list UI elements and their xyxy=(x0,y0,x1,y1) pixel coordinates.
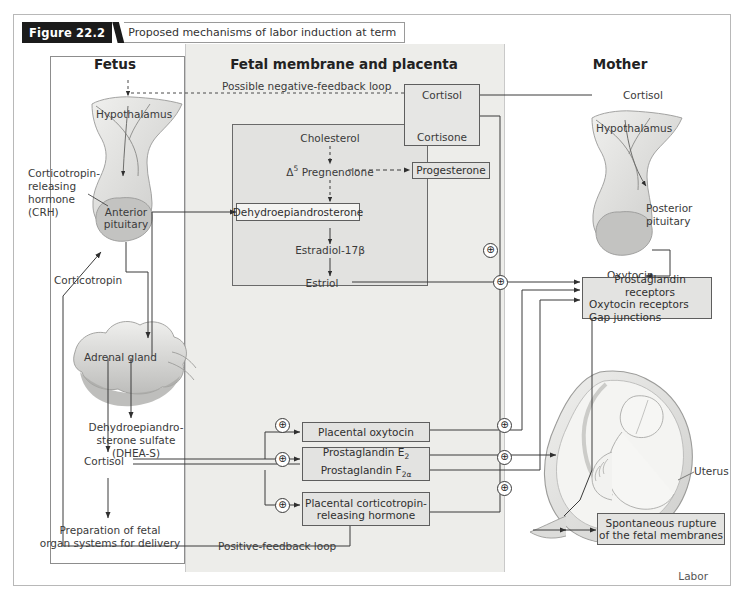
label-oxytocin-receptors: Oxytocin receptors xyxy=(589,298,689,311)
dehydroepiandrosterone-box: Dehydroepiandrosterone xyxy=(236,203,360,221)
label-preparation-line2: organ systems for delivery xyxy=(18,537,202,550)
label-prostaglandin-e2: Prostaglandin E2 xyxy=(323,446,409,464)
plus-symbol-prostaglandin-in: ⊕ xyxy=(275,452,290,467)
label-cortisone: Cortisone xyxy=(404,131,480,144)
label-crh-line1: Corticotropin- xyxy=(28,167,100,180)
figure-title-bar: Figure 22.2 Proposed mechanisms of labor… xyxy=(22,22,405,43)
label-preparation-line1: Preparation of fetal xyxy=(30,524,190,537)
rupture-box: Spontaneous rupture of the fetal membran… xyxy=(597,513,725,545)
progesterone-box: Progesterone xyxy=(412,162,490,179)
label-corticotropin: Corticotropin xyxy=(54,274,122,287)
label-adrenal-gland: Adrenal gland xyxy=(84,351,157,364)
receptors-box: Prostaglandin receptors Oxytocin recepto… xyxy=(582,277,712,319)
label-pregnenolone: Δ5 Pregnenolone xyxy=(272,163,388,178)
label-uterus: Uterus xyxy=(694,465,729,478)
placental-oxytocin-box: Placental oxytocin xyxy=(302,422,430,442)
label-placental-crh-line2: releasing hormone xyxy=(317,509,415,522)
label-dheas-line2: sterone sulfate xyxy=(76,434,196,447)
plus-symbol-estriol: ⊕ xyxy=(493,275,508,290)
label-dheas-line1: Dehydroepiandro- xyxy=(76,421,196,434)
label-crh-line4: (CRH) xyxy=(28,206,59,219)
label-fetal-hypothalamus: Hypothalamus xyxy=(96,108,172,121)
plus-symbol-pge2-out: ⊕ xyxy=(497,450,512,465)
label-maternal-hypothalamus: Hypothalamus xyxy=(596,122,672,135)
plus-symbol-pgf2a-out: ⊕ xyxy=(497,481,512,496)
plus-symbol-oxytocin-in: ⊕ xyxy=(275,418,290,433)
pregnenolone-name: Pregnenolone xyxy=(298,166,373,178)
label-rupture-line2: of the fetal membranes xyxy=(599,529,723,542)
plus-symbol-crh-in: ⊕ xyxy=(275,498,290,513)
figure-title: Proposed mechanisms of labor induction a… xyxy=(124,22,405,43)
label-crh-line3: hormone xyxy=(28,193,75,206)
label-fetal-cortisol: Cortisol xyxy=(84,455,124,468)
label-rupture-line1: Spontaneous rupture xyxy=(606,517,717,530)
label-negative-feedback-loop: Possible negative-feedback loop xyxy=(222,80,391,93)
label-anterior-pituitary-line2: pituitary xyxy=(88,218,164,231)
column-header-mother: Mother xyxy=(545,56,695,72)
pregnenolone-delta: Δ xyxy=(286,166,293,178)
label-estradiol: Estradiol-17β xyxy=(280,244,380,257)
label-labor: Labor xyxy=(678,570,708,582)
prostaglandin-box: Prostaglandin E2 Prostaglandin F2α xyxy=(302,447,430,481)
plus-symbol-oxytocin-out: ⊕ xyxy=(497,418,512,433)
plus-symbol-estradiol: ⊕ xyxy=(483,243,498,258)
label-gap-junctions: Gap junctions xyxy=(589,311,661,324)
label-crh-line2: releasing xyxy=(28,180,76,193)
label-anterior-pituitary-line1: Anterior xyxy=(88,206,164,219)
placental-crh-box: Placental corticotropin- releasing hormo… xyxy=(302,492,430,526)
label-maternal-cortisol: Cortisol xyxy=(623,89,663,102)
label-placental-crh-line1: Placental corticotropin- xyxy=(305,497,427,510)
label-estriol: Estriol xyxy=(290,277,354,290)
label-prostaglandin-f2a: Prostaglandin F2α xyxy=(321,464,412,482)
label-prostaglandin-receptors: Prostaglandin receptors xyxy=(589,273,711,298)
label-posterior-pituitary-line1: Posterior xyxy=(646,202,692,215)
label-cholesterol: Cholesterol xyxy=(280,132,380,145)
label-posterior-pituitary-line2: pituitary xyxy=(646,215,690,228)
figure-number: Figure 22.2 xyxy=(22,22,112,43)
column-header-placenta: Fetal membrane and placenta xyxy=(185,56,503,72)
figure-container: Figure 22.2 Proposed mechanisms of labor… xyxy=(0,0,746,600)
label-positive-feedback-loop: Positive-feedback loop xyxy=(218,540,336,553)
title-slash-divider xyxy=(112,22,124,43)
fetus-region-outline xyxy=(50,56,185,564)
label-placental-cortisol: Cortisol xyxy=(404,89,480,102)
